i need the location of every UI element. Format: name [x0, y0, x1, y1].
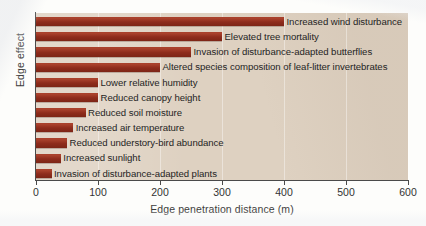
bar-row: Increased air temperature	[36, 120, 184, 135]
x-tick-label-600: 600	[399, 186, 417, 198]
bar-row: Reduced soil moisture	[36, 105, 182, 120]
bar	[36, 154, 61, 163]
x-tick-500	[346, 181, 347, 185]
bar	[36, 17, 284, 26]
gridline-500	[346, 13, 347, 180]
bar-row: Elevated tree mortality	[36, 29, 319, 44]
x-tick-label-300: 300	[213, 186, 231, 198]
x-tick-100	[98, 181, 99, 185]
bar	[36, 169, 52, 178]
bar-label: Reduced canopy height	[98, 93, 200, 103]
bar-label: Reduced understory-bird abundance	[67, 138, 224, 148]
bar-row: Increased wind disturbance	[36, 14, 402, 29]
x-tick-200	[160, 181, 161, 185]
x-tick-label-500: 500	[337, 186, 355, 198]
bar-row: Altered species composition of leaf-litt…	[36, 60, 387, 75]
bar	[36, 123, 73, 132]
y-axis-line	[35, 12, 36, 181]
bar-row: Increased sunlight	[36, 151, 140, 166]
plot-area: Increased wind disturbanceElevated tree …	[36, 13, 408, 180]
bar-label: Reduced soil moisture	[86, 108, 182, 118]
bar	[36, 138, 67, 147]
bar-row: Invasion of disturbance-adapted plants	[36, 166, 217, 181]
bar-row: Reduced canopy height	[36, 90, 200, 105]
bar-label: Altered species composition of leaf-litt…	[160, 62, 387, 72]
x-tick-600	[408, 181, 409, 185]
bar	[36, 108, 86, 117]
bar-label: Increased sunlight	[61, 153, 140, 163]
x-axis-title: Edge penetration distance (m)	[36, 203, 408, 215]
bar	[36, 78, 98, 87]
bar-label: Invasion of disturbance-adapted butterfl…	[191, 47, 372, 57]
bar-label: Increased wind disturbance	[284, 17, 402, 27]
y-axis-title: Edge effect	[14, 0, 26, 120]
x-tick-label-200: 200	[151, 186, 169, 198]
x-tick-label-400: 400	[275, 186, 293, 198]
x-tick-label-0: 0	[33, 186, 39, 198]
x-tick-300	[222, 181, 223, 185]
bar-label: Invasion of disturbance-adapted plants	[52, 169, 217, 179]
bar	[36, 47, 191, 56]
bar-row: Reduced understory-bird abundance	[36, 135, 224, 150]
x-tick-label-100: 100	[89, 186, 107, 198]
gridline-600	[408, 13, 409, 180]
bar-row: Lower relative humidity	[36, 75, 197, 90]
bar-label: Increased air temperature	[73, 123, 184, 133]
x-tick-400	[284, 181, 285, 185]
bar	[36, 32, 222, 41]
bar-label: Lower relative humidity	[98, 78, 197, 88]
bar	[36, 93, 98, 102]
x-tick-0	[36, 181, 37, 185]
bar	[36, 63, 160, 72]
bar-chart-figure: Edge effect Increased wind disturbanceEl…	[0, 0, 426, 226]
bar-row: Invasion of disturbance-adapted butterfl…	[36, 44, 372, 59]
bar-label: Elevated tree mortality	[222, 32, 319, 42]
